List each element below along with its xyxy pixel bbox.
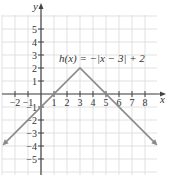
y-axis-arrow-icon xyxy=(39,3,44,9)
x-tick-label: 8 xyxy=(143,97,148,108)
y-axis-label: y xyxy=(32,0,38,12)
x-tick-label: −2 xyxy=(10,97,21,108)
y-tick-label: 1 xyxy=(32,76,37,87)
y-tick-label: 5 xyxy=(32,24,37,35)
function-graph: −2−11234567854321−1−2−3−4−5 h(x) = −|x −… xyxy=(0,0,169,184)
function-label: h(x) = −|x − 3| + 2 xyxy=(59,52,145,65)
x-tick-label: 5 xyxy=(104,97,109,108)
x-axis-label: x xyxy=(159,93,165,105)
x-tick-label: 1 xyxy=(52,97,57,108)
y-tick-label: −5 xyxy=(26,154,37,165)
y-tick-label: −1 xyxy=(26,102,37,113)
y-tick-label: 3 xyxy=(32,50,37,61)
x-tick-label: 2 xyxy=(65,97,70,108)
y-tick-label: 2 xyxy=(32,63,37,74)
x-tick-label: 3 xyxy=(78,97,83,108)
y-tick-label: −3 xyxy=(26,128,37,139)
x-tick-label: 4 xyxy=(91,97,96,108)
y-tick-label: 4 xyxy=(32,37,37,48)
y-tick-label: −4 xyxy=(26,141,37,152)
x-tick-label: 7 xyxy=(130,97,135,108)
